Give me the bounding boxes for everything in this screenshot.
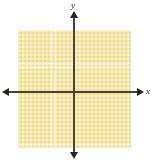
y-axis-line (73, 16, 75, 154)
arrow-right-icon (137, 88, 144, 96)
arrow-down-icon (70, 152, 78, 159)
arrow-left-icon (2, 88, 9, 96)
x-axis-label: x (146, 87, 150, 96)
y-axis-label: y (71, 1, 75, 10)
coordinate-plane-figure: y x (0, 0, 156, 164)
arrow-up-icon (70, 11, 78, 18)
